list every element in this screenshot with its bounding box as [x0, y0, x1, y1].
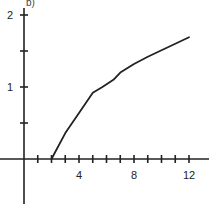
series-line — [52, 37, 190, 159]
y-tick-label: 2 — [7, 9, 13, 21]
data-series — [52, 37, 190, 159]
x-tick-label: 12 — [183, 169, 195, 181]
axes — [0, 8, 209, 204]
panel-label: b) — [26, 0, 35, 8]
line-chart: b) 4812 12 — [0, 0, 209, 204]
y-tick-labels: 12 — [7, 9, 13, 93]
x-tick-labels: 4812 — [76, 169, 195, 181]
x-tick-label: 4 — [76, 169, 82, 181]
y-tick-label: 1 — [7, 81, 13, 93]
x-tick-label: 8 — [131, 169, 137, 181]
